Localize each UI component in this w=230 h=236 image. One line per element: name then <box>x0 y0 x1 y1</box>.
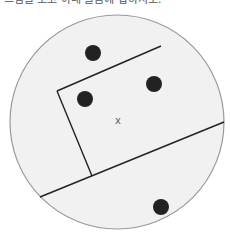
dot <box>77 91 93 107</box>
diagram: x <box>0 0 230 236</box>
dot <box>85 45 101 61</box>
dot <box>146 76 162 92</box>
dot <box>153 199 169 215</box>
center-mark: x <box>115 115 121 126</box>
